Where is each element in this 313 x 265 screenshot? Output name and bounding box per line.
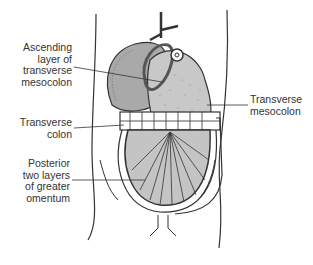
label-posterior-layers: Posterior two layers of greater omentum	[0, 158, 70, 204]
label-ascending-layer: Ascending layer of transverse mesocolon	[0, 42, 72, 88]
label-transverse-mesocolon: Transverse mesocolon	[250, 94, 302, 117]
label-transverse-colon: Transverse colon	[0, 117, 72, 140]
vessel-ring	[171, 49, 183, 61]
leader-transverse-colon	[74, 125, 124, 128]
anatomy-diagram: Ascending layer of transverse mesocolon …	[0, 0, 313, 265]
aorta	[150, 12, 178, 40]
pelvis-stem	[150, 215, 176, 236]
